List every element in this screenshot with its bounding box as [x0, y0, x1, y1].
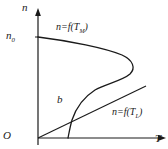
point-b-label: b — [57, 94, 63, 105]
series-label-TM: n=f(TM) — [56, 22, 88, 34]
y-axis-arrowhead — [35, 8, 41, 16]
series-tm-close: ) — [85, 21, 88, 32]
series-curve-TM — [38, 37, 133, 138]
series-tl-close: ) — [139, 106, 142, 117]
series-tl-eq: =f( — [117, 106, 130, 117]
series-label-TL: n=f(TL) — [112, 107, 142, 119]
x-axis-label: T — [155, 133, 161, 144]
figure-container: n T O n0 b n=f(TM) n=f(TL) — [0, 0, 168, 149]
n-zero-subscript: 0 — [12, 36, 15, 43]
series-tm-eq: =f( — [61, 21, 74, 32]
y-axis-label: n — [22, 2, 28, 13]
n-zero-label: n0 — [6, 30, 15, 44]
origin-label: O — [3, 130, 11, 141]
